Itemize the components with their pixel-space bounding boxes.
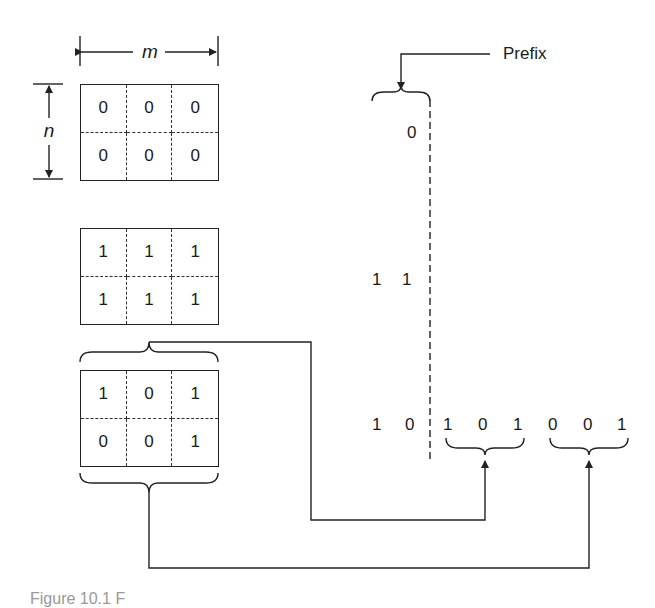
grid-cell: 0 xyxy=(81,419,127,467)
prefix-arrow xyxy=(401,54,490,89)
grid-all-zeros: 0 0 0 0 0 0 xyxy=(80,84,219,181)
encoded-bit: 0 xyxy=(548,416,557,433)
grid-cell: 1 xyxy=(81,277,127,325)
encoded-bit: 1 xyxy=(443,416,452,433)
grid-cell: 1 xyxy=(172,277,218,325)
prefix-bit: 0 xyxy=(407,124,416,141)
encoded-bit: 1 xyxy=(513,416,522,433)
encoded-bit: 1 xyxy=(617,416,626,433)
prefix-bit: 0 xyxy=(405,416,414,433)
prefix-brace xyxy=(372,86,430,101)
grid-cell: 0 xyxy=(127,133,173,181)
grid-cell: 1 xyxy=(81,229,127,277)
grid-cell: 0 xyxy=(127,419,173,467)
prefix-bit: 1 xyxy=(372,271,381,288)
encoded-bit: 0 xyxy=(583,416,592,433)
grid-cell: 1 xyxy=(81,371,127,419)
encoded-bit: 0 xyxy=(478,416,487,433)
m-label: m xyxy=(141,42,159,61)
grid-cell: 0 xyxy=(127,371,173,419)
encoded-row2-brace xyxy=(550,438,628,455)
connector-row2 xyxy=(149,461,589,568)
grid-cell: 0 xyxy=(81,133,127,181)
encoded-row1-brace xyxy=(446,438,524,455)
grid-mixed: 1 0 1 0 0 1 xyxy=(80,370,219,467)
grid-cell: 0 xyxy=(127,85,173,133)
grid-cell: 1 xyxy=(127,229,173,277)
grid-cell: 1 xyxy=(172,371,218,419)
figure-caption: Figure 10.1 F xyxy=(30,590,125,608)
prefix-label: Prefix xyxy=(503,45,546,62)
prefix-bit: 1 xyxy=(402,271,411,288)
grid-cell: 0 xyxy=(172,85,218,133)
grid-cell: 0 xyxy=(172,133,218,181)
prefix-bit: 1 xyxy=(372,416,381,433)
grid-cell: 1 xyxy=(127,277,173,325)
grid-all-ones: 1 1 1 1 1 1 xyxy=(80,228,219,325)
grid-cell: 1 xyxy=(172,229,218,277)
n-label: n xyxy=(40,121,58,140)
grid3-top-brace xyxy=(80,342,218,362)
grid3-bottom-brace xyxy=(80,473,218,493)
grid-cell: 1 xyxy=(172,419,218,467)
grid-cell: 0 xyxy=(81,85,127,133)
